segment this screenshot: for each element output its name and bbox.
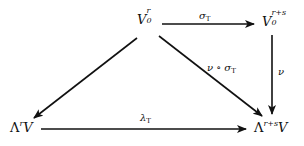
node-top-left-base: V: [137, 12, 146, 27]
node-top-right-sup: r+s: [271, 9, 286, 17]
label-composite: ν ∘ σT: [207, 63, 236, 73]
node-top-left-sub: 0: [146, 17, 151, 25]
label-lambda-sub: T: [146, 117, 151, 125]
node-top-right: Vr+s0: [262, 15, 292, 28]
node-bottom-left-sup: r: [19, 119, 23, 128]
node-bottom-right-sup: r+s: [263, 119, 278, 128]
node-bottom-right-prefix: Λ: [254, 120, 263, 135]
node-top-left-sup: r: [146, 7, 150, 15]
label-nu: ν: [278, 67, 284, 77]
label-sigma-sub: T: [206, 15, 211, 23]
label-lambda: λT: [140, 113, 151, 123]
node-bottom-left-base: V: [23, 120, 32, 135]
node-top-right-sub: 0: [271, 19, 276, 27]
node-top-right-base: V: [262, 14, 271, 29]
label-composite-sub: T: [231, 67, 236, 75]
label-sigma-text: σ: [199, 10, 206, 21]
arrow-composite: [159, 36, 262, 116]
label-composite-text: ν ∘ σ: [207, 62, 231, 73]
commutative-diagram: Vr0 Vr+s0 ΛrV Λr+sV σT ν ν ∘ σT λT: [0, 0, 304, 146]
label-nu-text: ν: [278, 66, 284, 77]
node-bottom-right: Λr+sV: [254, 121, 287, 134]
node-bottom-left-prefix: Λ: [10, 120, 19, 135]
arrow-left-diagonal: [34, 38, 137, 118]
node-bottom-left: ΛrV: [10, 121, 33, 134]
node-bottom-right-base: V: [278, 120, 287, 135]
node-top-left: Vr0: [137, 13, 155, 26]
label-sigma: σT: [199, 11, 211, 21]
